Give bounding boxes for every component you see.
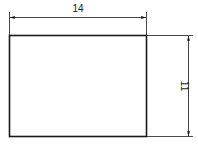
height-dimension-label: 11 [179,81,190,92]
dimension-drawing: 14 11 [0,0,198,149]
width-dimension-label: 14 [72,3,84,14]
rectangle-shape [10,36,147,137]
